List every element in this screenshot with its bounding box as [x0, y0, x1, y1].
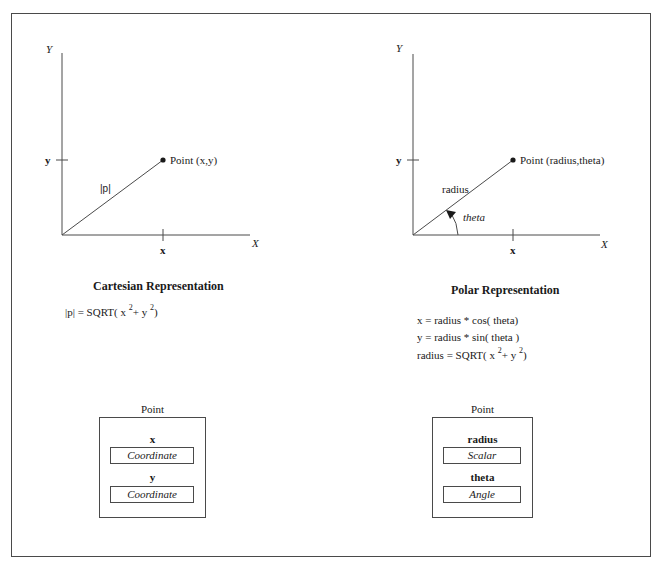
polar-point-dot	[510, 157, 515, 162]
field-type-theta: Angle	[443, 486, 521, 503]
cartesian-point-label: Point (x,y)	[170, 154, 217, 166]
polar-class-box: radius Scalar theta Angle	[432, 417, 533, 518]
polar-x-axis-label: X	[601, 238, 608, 250]
field-name-y: y	[100, 471, 205, 483]
field-name-radius: radius	[433, 433, 532, 445]
polar-vector	[413, 160, 513, 235]
field-name-x: x	[100, 433, 205, 445]
polar-x-tick-label: x	[510, 244, 516, 256]
polar-class-title: Point	[432, 403, 533, 415]
cartesian-vector	[62, 160, 163, 235]
polar-y-axis-label: Y	[396, 42, 402, 54]
polar-point-label: Point (radius,theta)	[520, 154, 604, 166]
field-name-theta: theta	[433, 471, 532, 483]
cartesian-point-dot	[160, 157, 165, 162]
cartesian-axes	[56, 53, 250, 241]
polar-formula-radius: radius = SQRT( x 2+ y 2)	[417, 347, 527, 364]
field-type-radius: Scalar	[443, 447, 521, 464]
field-type-y: Coordinate	[110, 486, 194, 503]
polar-formula-x: x = radius * cos( theta)	[417, 312, 518, 329]
field-type-x: Coordinate	[110, 447, 194, 464]
cartesian-formula: |p| = SQRT( x 2+ y 2)	[65, 304, 158, 321]
formula-text: + y	[502, 349, 519, 361]
formula-text: |p| = SQRT( x	[65, 306, 129, 318]
cartesian-heading: Cartesian Representation	[93, 279, 224, 294]
cartesian-vector-label: |p|	[100, 183, 111, 195]
cartesian-y-tick-label: y	[45, 154, 51, 166]
polar-y-tick-label: y	[396, 154, 402, 166]
polar-angle-label: theta	[463, 211, 485, 223]
cartesian-x-tick-label: x	[160, 244, 166, 256]
polar-heading: Polar Representation	[451, 283, 560, 298]
polar-formula-y: y = radius * sin( theta )	[417, 329, 519, 346]
polar-vector-label: radius	[442, 183, 469, 195]
polar-axes	[407, 54, 600, 241]
formula-text: )	[154, 306, 158, 318]
formula-text: radius = SQRT( x	[417, 349, 498, 361]
formula-text: + y	[133, 306, 150, 318]
cartesian-class-box: x Coordinate y Coordinate	[99, 417, 206, 518]
formula-text: )	[523, 349, 527, 361]
cartesian-x-axis-label: X	[252, 237, 259, 249]
cartesian-class-title: Point	[99, 403, 206, 415]
cartesian-y-axis-label: Y	[46, 43, 52, 55]
theta-arrowhead-icon	[446, 210, 456, 219]
